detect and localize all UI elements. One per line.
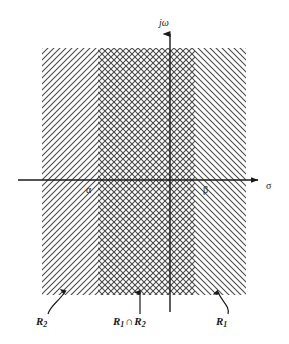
region-r1-label-subscript: 1 (223, 320, 227, 329)
alpha-label: α (86, 185, 91, 195)
region-r1-label: R1 (216, 316, 227, 329)
sigma-axis-label: σ (266, 181, 271, 191)
region-r1-band (98, 48, 246, 295)
roc-diagram-figure: jω σ α β R2 R1∩R2 R1 (0, 0, 289, 344)
region-intersection-label: R1∩R2 (113, 316, 146, 329)
region-r2-label: R2 (36, 316, 47, 329)
beta-label: β (203, 185, 208, 195)
r1-leader (218, 292, 228, 314)
jomega-axis-label: jω (159, 18, 169, 28)
r2-leader (48, 292, 65, 314)
roc-diagram-canvas (0, 0, 289, 344)
region-intersection-subscript-2: 2 (142, 320, 146, 329)
region-intersection-prefix-2: R (134, 315, 141, 327)
region-r2-label-subscript: 2 (43, 320, 47, 329)
intersection-operator-icon: ∩ (124, 315, 134, 327)
